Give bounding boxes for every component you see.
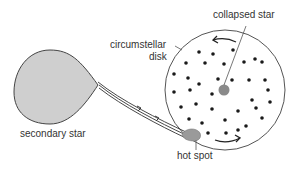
disk-label-line1: circumstellar xyxy=(110,40,166,50)
disk-particle xyxy=(266,88,270,92)
disk-particle xyxy=(197,82,201,86)
disk-particle xyxy=(236,109,240,113)
secondary-star xyxy=(14,50,98,124)
disk-particle xyxy=(172,72,176,76)
disk-particle xyxy=(231,48,235,52)
disk-particle xyxy=(200,121,204,125)
disk-particle xyxy=(254,106,258,110)
disk-particle xyxy=(187,117,191,121)
disk-particle xyxy=(244,124,248,128)
disk-particle xyxy=(211,52,215,56)
disk-particle xyxy=(268,100,272,104)
disk-particle xyxy=(216,77,220,81)
collapsed-star-label: collapsed star xyxy=(213,10,275,20)
disk-label-line2: disk xyxy=(149,52,167,62)
disk-particle xyxy=(210,92,214,96)
hot-spot xyxy=(182,129,201,141)
disk-particle xyxy=(223,118,227,122)
accretion-diagram xyxy=(0,0,292,171)
disk-particle xyxy=(260,60,264,64)
disk-particle xyxy=(247,78,251,82)
collapsed-star xyxy=(219,85,230,96)
disk-particle xyxy=(242,60,246,64)
disk-leader xyxy=(175,46,182,50)
disk-particle xyxy=(263,78,267,82)
disk-particle xyxy=(260,116,264,120)
disk-particle xyxy=(194,102,198,106)
hot-spot-label: hot spot xyxy=(177,151,213,161)
disk-particle xyxy=(186,76,190,80)
disk-particle xyxy=(224,131,228,135)
disk-particle xyxy=(172,90,176,94)
disk-particle xyxy=(179,105,183,109)
disk-particle xyxy=(188,88,192,92)
disk-particle xyxy=(222,62,226,66)
disk-particle xyxy=(184,61,188,65)
disk-particle xyxy=(253,57,257,61)
disk-particle xyxy=(210,107,214,111)
secondary-star-label: secondary star xyxy=(20,129,86,139)
disk-particle xyxy=(206,131,210,135)
disk-particle xyxy=(236,128,240,132)
disk-particle xyxy=(230,78,234,82)
disk-particle xyxy=(197,50,201,54)
disk-particle xyxy=(250,98,254,102)
disk-particle xyxy=(203,61,207,65)
